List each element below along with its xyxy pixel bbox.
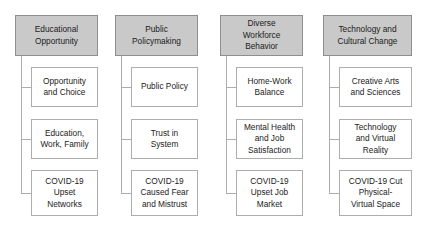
child-node-label: Trust in System bbox=[151, 128, 179, 151]
child-node-label: Mental Health and Job Satisfaction bbox=[244, 122, 295, 156]
hierarchy-diagram: Educational Opportunity Opportunity and … bbox=[0, 0, 422, 225]
child-node-label: Education, Work, Family bbox=[40, 128, 88, 151]
connector-stub bbox=[121, 87, 131, 88]
child-node-box: Education, Work, Family bbox=[31, 119, 98, 159]
connector-stub bbox=[329, 87, 339, 88]
connector-trunk bbox=[226, 56, 227, 193]
child-node-label: COVID-19 Upset Networks bbox=[45, 176, 83, 210]
connector-stub bbox=[226, 193, 236, 194]
child-node-box: Trust in System bbox=[131, 119, 198, 159]
column-header-box: Public Policymaking bbox=[115, 15, 198, 56]
child-node-label: COVID-19 Cut Physical- Virtual Space bbox=[349, 176, 402, 210]
child-node-box: Mental Health and Job Satisfaction bbox=[236, 119, 303, 159]
child-node-box: Home-Work Balance bbox=[236, 67, 303, 107]
child-node-label: COVID-19 Upset Job Market bbox=[250, 176, 288, 210]
child-node-label: Public Policy bbox=[141, 81, 188, 92]
column-header-box: Educational Opportunity bbox=[15, 15, 98, 56]
connector-stub bbox=[121, 193, 131, 194]
column-header-box: Diverse Workforce Behavior bbox=[220, 15, 303, 56]
connector-stub bbox=[21, 193, 31, 194]
connector-stub bbox=[21, 87, 31, 88]
child-node-box: COVID-19 Caused Fear and Mistrust bbox=[131, 170, 198, 216]
connector-stub bbox=[121, 139, 131, 140]
child-node-box: COVID-19 Upset Networks bbox=[31, 170, 98, 216]
column-header-box: Technology and Cultural Change bbox=[323, 15, 412, 56]
column-header-label: Public Policymaking bbox=[132, 24, 181, 47]
child-node-box: COVID-19 Cut Physical- Virtual Space bbox=[339, 170, 412, 216]
connector-stub bbox=[21, 139, 31, 140]
child-node-label: Creative Arts and Sciences bbox=[351, 76, 401, 99]
column-header-label: Technology and Cultural Change bbox=[338, 24, 398, 47]
child-node-box: COVID-19 Upset Job Market bbox=[236, 170, 303, 216]
child-node-label: Technology and Virtual Reality bbox=[355, 122, 397, 156]
child-node-box: Opportunity and Choice bbox=[31, 67, 98, 107]
child-node-label: Home-Work Balance bbox=[247, 76, 291, 99]
child-node-box: Creative Arts and Sciences bbox=[339, 67, 412, 107]
connector-trunk bbox=[21, 56, 22, 193]
connector-stub bbox=[329, 193, 339, 194]
column-header-label: Educational Opportunity bbox=[35, 24, 78, 47]
connector-trunk bbox=[121, 56, 122, 193]
child-node-box: Public Policy bbox=[131, 67, 198, 107]
connector-stub bbox=[226, 139, 236, 140]
connector-stub bbox=[226, 87, 236, 88]
child-node-label: COVID-19 Caused Fear and Mistrust bbox=[141, 176, 189, 210]
column-header-label: Diverse Workforce Behavior bbox=[243, 18, 281, 52]
connector-trunk bbox=[329, 56, 330, 193]
connector-stub bbox=[329, 139, 339, 140]
child-node-box: Technology and Virtual Reality bbox=[339, 119, 412, 159]
child-node-label: Opportunity and Choice bbox=[43, 76, 86, 99]
